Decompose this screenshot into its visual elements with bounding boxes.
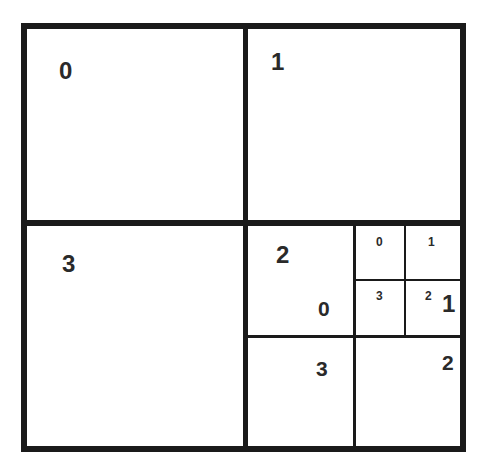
subsubquadrant-label-1: 1 [428,236,435,248]
level2-horizontal-divider [356,279,460,281]
level0-vertical-divider [243,23,248,452]
subsubquadrant-label-0: 0 [376,236,383,248]
subquadrant-label-0: 0 [318,298,330,319]
subquadrant-label-1: 1 [442,292,455,316]
level1-horizontal-divider [248,335,460,338]
quadrant-label-2: 2 [276,243,289,267]
subquadrant-label-3: 3 [316,358,328,379]
subsubquadrant-label-2: 2 [425,290,432,302]
level0-horizontal-divider [21,220,466,226]
figure-caption [0,462,483,471]
quadrant-label-1: 1 [271,50,284,74]
quadrant-label-3: 3 [62,252,75,276]
quadrant-label-0: 0 [59,59,72,83]
subsubquadrant-label-3: 3 [376,290,383,302]
subquadrant-label-2: 2 [442,352,454,373]
